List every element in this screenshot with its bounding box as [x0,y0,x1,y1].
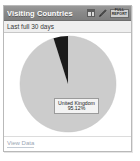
view-data-link[interactable]: View Data [7,140,34,148]
widget-footer: View Data [4,136,131,151]
pie-chart-area: United Kingdom 95.12% [4,33,131,136]
visiting-countries-widget: Visiting Countries FULL REPORT Last full… [3,5,132,152]
widget-subtitle-bar: Last full 30 days [4,21,131,33]
full-report-badge-line2: REPORT [112,13,127,17]
full-report-badge[interactable]: FULL REPORT [110,9,129,18]
pencil-icon[interactable] [98,9,107,18]
date-range-label: Last full 30 days [7,23,54,30]
pie-slice-callout: United Kingdom 95.12% [54,98,99,114]
page-title: Visiting Countries [7,9,87,18]
widget-titlebar: Visiting Countries FULL REPORT [4,6,131,21]
pie-slice-united-kingdom [20,36,116,132]
titlebar-tools: FULL REPORT [87,9,129,18]
table-grid-icon[interactable] [87,9,95,17]
pie-chart [19,35,117,133]
pie-slice-callout-percent: 95.12% [58,106,95,112]
